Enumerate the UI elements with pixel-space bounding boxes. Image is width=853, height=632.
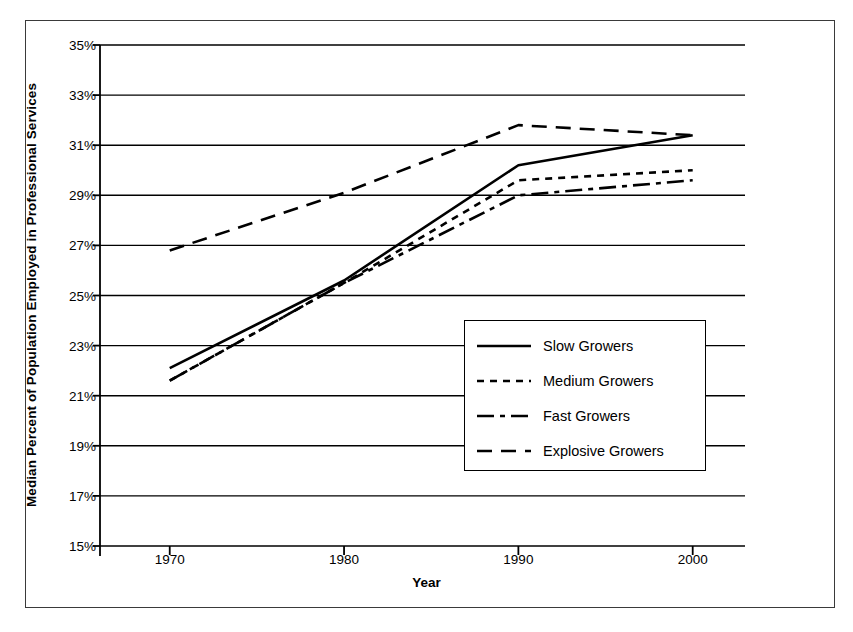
legend-line-swatch [465,445,543,457]
legend-line-swatch [465,375,543,387]
legend-item: Medium Growers [465,362,705,399]
legend-line-swatch [465,340,543,352]
legend-label: Fast Growers [543,408,630,424]
legend-item: Explosive Growers [465,432,705,469]
legend: Slow GrowersMedium GrowersFast GrowersEx… [464,320,706,471]
legend-label: Slow Growers [543,338,633,354]
chart-plot-area [0,0,853,632]
legend-item: Slow Growers [465,327,705,364]
legend-line-swatch [465,410,543,422]
legend-item: Fast Growers [465,397,705,434]
axis-ticks [93,45,693,555]
legend-label: Medium Growers [543,373,653,389]
legend-label: Explosive Growers [543,443,664,459]
